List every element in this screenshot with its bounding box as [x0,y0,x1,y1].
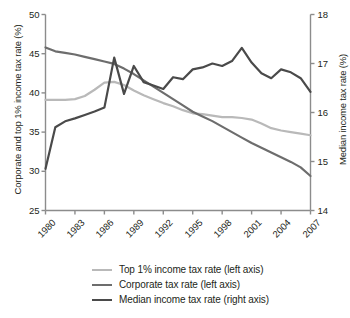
left-y-tick-label: 45 [18,48,40,59]
legend-swatch [92,269,112,271]
legend-label: Corporate tax rate (left axis) [119,279,240,290]
legend-swatch [92,299,112,301]
series-line-0 [46,82,311,135]
left-y-tick-label: 50 [18,9,40,20]
right-y-tick-label: 14 [318,205,340,216]
right-y-tick-label: 16 [318,107,340,118]
right-y-tick-label: 15 [318,156,340,167]
legend-label: Top 1% income tax rate (left axis) [119,264,263,275]
left-y-tick-label: 35 [18,126,40,137]
tax-rate-line-chart: Corporate and top 1% income tax rate (%)… [0,0,350,318]
legend-swatch [92,284,112,286]
left-y-tick-label: 25 [18,205,40,216]
left-axis-title: Corporate and top 1% income tax rate (%) [12,10,23,210]
legend-item: Median income tax rate (right axis) [92,292,342,307]
legend-item: Corporate tax rate (left axis) [92,277,342,292]
left-y-tick-label: 30 [18,165,40,176]
left-y-tick-label: 40 [18,87,40,98]
chart-legend: Top 1% income tax rate (left axis)Corpor… [92,262,342,307]
right-y-tick-label: 18 [318,9,340,20]
series-line-1 [46,47,311,176]
legend-item: Top 1% income tax rate (left axis) [92,262,342,277]
right-y-tick-label: 17 [318,58,340,69]
legend-label: Median income tax rate (right axis) [119,294,269,305]
